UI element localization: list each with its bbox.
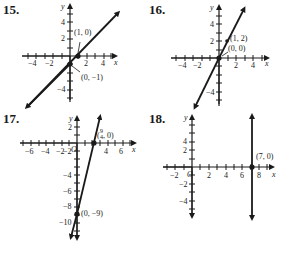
x-axis-label: x [131, 145, 136, 154]
tick-label: 4 [61, 18, 65, 27]
tick-label: 2 [183, 146, 187, 155]
point-label: (7, 0) [256, 152, 274, 161]
tick-label: −6 [25, 147, 34, 156]
x-axis-label: x [271, 170, 276, 179]
tick-label: 6 [119, 147, 123, 156]
tick-label: −2 [193, 61, 202, 70]
tick-label: −6 [63, 187, 72, 196]
point-1-0 [75, 53, 80, 58]
tick-label: 2 [234, 61, 238, 70]
tick-label: 2 [207, 171, 211, 180]
tick-label: −10 [59, 218, 72, 227]
tick-label: 2 [61, 34, 65, 43]
point-label: (0, −1) [81, 73, 103, 82]
origin-label: O [71, 145, 77, 154]
x-axis-label: x [113, 58, 118, 67]
y-axis-label: y [60, 2, 65, 11]
tick-label: −2 [179, 180, 188, 189]
tick-label: 4 [251, 61, 255, 70]
graphs-canvas: (1, 0) (0, −1) x y −4 −2 2 4 4 2 −4 [0, 0, 292, 253]
tick-label: 2 [210, 37, 214, 46]
tick-label: −4 [178, 61, 187, 70]
y-axis-label: y [209, 3, 214, 12]
tick-label: 6 [240, 171, 244, 180]
origin-label: O [187, 170, 193, 179]
tick-label: −8 [63, 202, 72, 211]
tick-label: 8 [257, 171, 261, 180]
point-0-0 [216, 55, 221, 60]
tick-label: 4 [210, 20, 214, 29]
tick-label: 2 [68, 123, 72, 132]
point-9-4-0 [91, 140, 96, 145]
tick-label: 4 [101, 59, 105, 68]
tick-label: −2 [45, 59, 54, 68]
graph-18: (7, 0) O x y −2 2 4 6 8 4 2 −2 −4 [163, 113, 276, 218]
point-label: (1, 2) [230, 34, 248, 43]
graph-17: ( 9 4 , 0) (0, −9) O x y −6 −4 −2 4 6 2 … [20, 114, 136, 238]
tick-label: −4 [63, 171, 72, 180]
y-axis-label: y [183, 113, 188, 122]
point-label: (0, −9) [81, 209, 103, 218]
graph-15: (1, 0) (0, −1) x y −4 −2 2 4 4 2 −4 [22, 2, 118, 107]
point-label: , 0) [103, 131, 114, 140]
tick-label: 4 [104, 147, 108, 156]
tick-label: −4 [41, 147, 50, 156]
tick-label: −4 [179, 197, 188, 206]
tick-label: −4 [57, 85, 66, 94]
tick-label: 4 [183, 137, 187, 146]
point-7-0 [249, 164, 254, 169]
y-axis-label: y [68, 114, 73, 123]
x-axis-label: x [264, 59, 269, 68]
point-1-2 [225, 39, 229, 43]
graph-16: (1, 2) (0, 0) x y −4 −2 2 4 4 2 −4 [171, 3, 269, 107]
tick-label: 4 [224, 171, 228, 180]
tick-label: −2 [170, 171, 179, 180]
point-0-neg1 [67, 61, 72, 66]
tick-label: 2 [84, 59, 88, 68]
tick-label: −4 [28, 59, 37, 68]
point-label: (1, 0) [74, 28, 92, 37]
tick-label: −2 [63, 147, 72, 156]
tick-label: −4 [206, 88, 215, 97]
point-label: (0, 0) [228, 44, 246, 53]
point-0-neg9 [74, 211, 79, 216]
